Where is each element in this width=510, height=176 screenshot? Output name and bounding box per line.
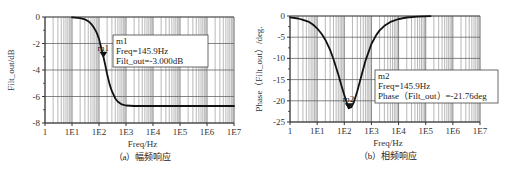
y-tick-label: -5 [278,32,286,42]
marker-readout-line: m1 [116,36,128,46]
x-tick-label: 1 [288,126,293,136]
y-tick-label: -6 [33,92,41,102]
grid [290,16,480,122]
caption: （b）相频响应 [359,150,418,161]
y-tick-label: 0 [36,12,41,22]
phase-response-plot: 0-5-10-15-20-2511E11E21E31E41E51E61E7 m2… [254,11,498,161]
y-axis-label: Filt_out/dB [6,49,16,91]
x-tick-label: 1E5 [418,126,433,136]
marker-readout-line: m2 [378,71,390,81]
x-tick-label: 1E6 [200,127,215,137]
y-tick-label: 0 [281,11,286,21]
x-tick-label: 1E2 [92,127,107,137]
marker-m2: m2m2Freq=145.9HzPhase（Filt_out）=-21.76de… [343,70,498,109]
marker-name: m2 [343,94,355,104]
x-tick-label: 1E6 [446,126,461,136]
y-axis-label: Phase（Filt_out）/deg. [254,26,264,111]
x-tick-label: 1E7 [473,126,488,136]
x-tick-label: 1 [43,127,48,137]
caption: （a）幅频响应 [114,151,172,162]
x-tick-label: 1E5 [173,127,188,137]
y-tick-label: -8 [33,118,41,128]
marker-readout-line: Phase（Filt_out）=-21.76deg [378,91,487,101]
grid [45,17,234,123]
y-tick-label: -4 [33,65,41,75]
y-tick-label: -2 [33,39,41,49]
figure: 0-2-4-6-811E11E21E31E41E51E61E7 m1m1Freq… [0,0,510,176]
x-tick-label: 1E4 [391,126,406,136]
x-tick-label: 1E7 [227,127,242,137]
x-axis-label: Freq/Hz [128,139,158,149]
y-tick-label: -10 [273,53,285,63]
y-tick-label: -25 [273,117,285,127]
marker-readout-line: Freq=145.9Hz [116,46,168,56]
x-tick-label: 1E1 [65,127,80,137]
magnitude-response-plot: 0-2-4-6-811E11E21E31E41E51E61E7 m1m1Freq… [6,12,242,162]
x-tick-label: 1E2 [337,126,352,136]
marker-readout-line: Filt_out=-3.000dB [116,56,183,66]
y-tick-label: -15 [273,75,285,85]
marker-readout-line: Freq=145.9Hz [378,81,430,91]
x-tick-label: 1E1 [310,126,325,136]
x-axis-label: Freq/Hz [373,138,403,148]
y-tick-label: -20 [273,96,285,106]
x-tick-label: 1E4 [146,127,161,137]
x-tick-label: 1E3 [364,126,379,136]
marker-name: m1 [97,43,109,53]
marker-m1: m1m1Freq=145.9HzFilt_out=-3.000dB [97,35,208,67]
x-tick-label: 1E3 [119,127,134,137]
